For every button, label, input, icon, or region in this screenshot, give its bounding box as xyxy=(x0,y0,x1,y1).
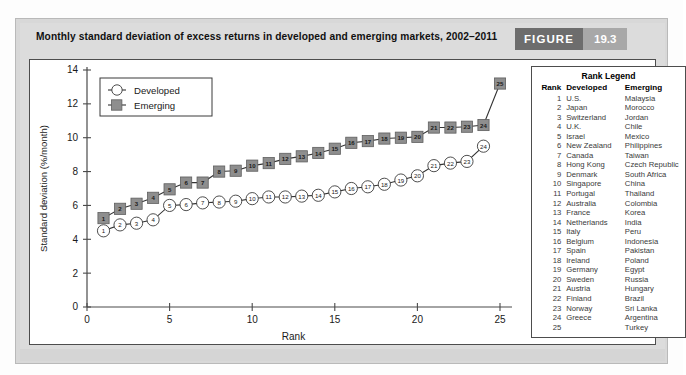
developed-point: 11 xyxy=(263,191,275,203)
emerging-cell: Russia xyxy=(625,275,685,285)
rank-cell: 5 xyxy=(532,132,566,142)
developed-point: 14 xyxy=(312,189,324,201)
rank-legend-row: 23NorwaySri Lanka xyxy=(532,304,685,314)
developed-cell: France xyxy=(566,208,625,218)
emerging-cell: Korea xyxy=(625,208,685,218)
rank-legend-row: 5IsraelMexico xyxy=(532,132,685,142)
rank-legend-row: 2JapanMorocco xyxy=(532,103,685,113)
emerging-cell: Thailand xyxy=(625,189,685,199)
developed-point: 12 xyxy=(279,191,291,203)
emerging-cell: Mexico xyxy=(625,132,685,142)
developed-point: 4 xyxy=(147,214,159,226)
rank-cell: 25 xyxy=(532,323,566,333)
developed-point-label: 16 xyxy=(348,185,355,192)
developed-point: 13 xyxy=(296,190,308,202)
rank-cell: 10 xyxy=(532,179,566,189)
rank-cell: 21 xyxy=(532,284,566,294)
developed-point-label: 2 xyxy=(118,221,122,228)
rank-legend-row: 10SingaporeChina xyxy=(532,179,685,189)
emerging-cell: Hungary xyxy=(625,284,685,294)
emerging-point: 20 xyxy=(412,131,423,142)
y-tick-label: 8 xyxy=(72,166,78,177)
rank-legend-row: 4U.K.Chile xyxy=(532,122,685,132)
developed-cell: Netherlands xyxy=(566,218,625,228)
emerging-point: 18 xyxy=(379,133,390,144)
rank-legend-row: 12AustraliaColombia xyxy=(532,199,685,209)
emerging-point-label: 23 xyxy=(464,123,471,130)
figure-footer-band xyxy=(20,349,665,361)
emerging-cell: Argentina xyxy=(625,313,685,323)
rank-legend-col-emerging: Emerging xyxy=(625,83,685,94)
emerging-point: 14 xyxy=(313,147,324,158)
emerging-point-label: 3 xyxy=(135,200,139,207)
emerging-point: 1 xyxy=(98,213,109,224)
emerging-point: 15 xyxy=(329,143,340,154)
rank-legend-row: 25Turkey xyxy=(532,323,685,333)
emerging-cell: Poland xyxy=(625,256,685,266)
developed-cell: Spain xyxy=(566,246,625,256)
developed-point-label: 12 xyxy=(282,193,289,200)
developed-point-label: 3 xyxy=(135,220,139,227)
emerging-point: 21 xyxy=(428,122,439,133)
rank-cell: 2 xyxy=(532,103,566,113)
developed-point: 22 xyxy=(444,157,456,169)
x-tick-label: 0 xyxy=(84,314,90,325)
rank-legend-row: 3SwitzerlandJordan xyxy=(532,113,685,123)
developed-point: 3 xyxy=(130,217,142,229)
emerging-point: 23 xyxy=(461,121,472,132)
emerging-point-label: 14 xyxy=(315,150,322,157)
developed-cell: U.K. xyxy=(566,122,625,132)
emerging-cell: Chile xyxy=(625,122,685,132)
rank-cell: 23 xyxy=(532,304,566,314)
figure-header: Monthly standard deviation of excess ret… xyxy=(20,23,665,57)
developed-cell: Austria xyxy=(566,284,625,294)
rank-cell: 16 xyxy=(532,237,566,247)
rank-cell: 20 xyxy=(532,275,566,285)
developed-point-label: 6 xyxy=(184,201,188,208)
developed-point: 16 xyxy=(345,182,357,194)
developed-point: 21 xyxy=(428,160,440,172)
emerging-point: 3 xyxy=(131,198,142,209)
legend-emg-label: Emerging xyxy=(134,100,175,111)
rank-legend-col-developed: Developed xyxy=(566,83,625,94)
rank-legend-row: 11PortugalThailand xyxy=(532,189,685,199)
emerging-point-label: 12 xyxy=(282,155,289,162)
developed-cell: Denmark xyxy=(566,170,625,180)
rank-legend-body: 1U.S.Malaysia2JapanMorocco3SwitzerlandJo… xyxy=(532,94,685,333)
emerging-cell: India xyxy=(625,218,685,228)
emerging-cell: Malaysia xyxy=(625,94,685,104)
developed-point: 15 xyxy=(329,186,341,198)
developed-cell: Switzerland xyxy=(566,113,625,123)
y-tick-label: 12 xyxy=(67,98,79,109)
rank-cell: 6 xyxy=(532,141,566,151)
rank-cell: 18 xyxy=(532,256,566,266)
y-axis-title: Standard deviation (%/month) xyxy=(38,125,49,252)
emerging-point-label: 15 xyxy=(331,145,338,152)
emerging-point: 5 xyxy=(164,184,175,195)
developed-point: 5 xyxy=(164,199,176,211)
emerging-cell: Colombia xyxy=(625,199,685,209)
rank-legend-table: Rank Legend Rank Developed Emerging 1U.S… xyxy=(531,66,686,338)
developed-point: 23 xyxy=(461,155,473,167)
emerging-point-label: 17 xyxy=(364,138,371,145)
developed-cell: Ireland xyxy=(566,256,625,266)
emerging-point: 24 xyxy=(478,119,489,130)
developed-point: 7 xyxy=(197,197,209,209)
rank-legend-row: 17SpainPakistan xyxy=(532,246,685,256)
rank-legend-row: 8Hong KongCzech Republic xyxy=(532,160,685,170)
developed-cell: Finland xyxy=(566,294,625,304)
developed-point: 1 xyxy=(97,225,109,237)
rank-legend-col-rank: Rank xyxy=(532,83,566,94)
emerging-point: 10 xyxy=(247,160,258,171)
rank-cell: 17 xyxy=(532,246,566,256)
developed-point-label: 24 xyxy=(480,143,487,150)
rank-cell: 24 xyxy=(532,313,566,323)
developed-series-line xyxy=(104,146,484,231)
developed-cell: Australia xyxy=(566,199,625,209)
figure-card: Monthly standard deviation of excess ret… xyxy=(15,18,668,364)
emerging-cell: Brazil xyxy=(625,294,685,304)
figure-card-inner: Monthly standard deviation of excess ret… xyxy=(20,23,665,361)
developed-point: 18 xyxy=(378,178,390,190)
emerging-cell: China xyxy=(625,179,685,189)
legend-emg-marker xyxy=(112,100,122,110)
